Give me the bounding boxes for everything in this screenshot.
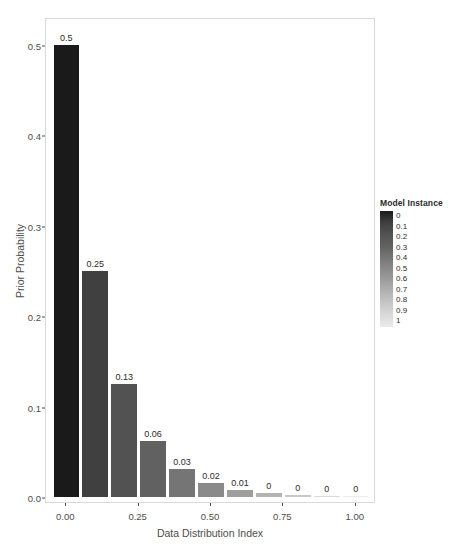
bar-group: 0: [285, 481, 310, 497]
legend-tick-label: 0.7: [396, 286, 407, 294]
legend: Model Instance 00.10.20.30.40.50.60.70.8…: [380, 198, 460, 327]
y-axis-title: Prior Probability: [14, 161, 26, 361]
y-tick-label: 0.4: [28, 131, 41, 142]
bar-group: 0: [314, 482, 339, 497]
bar-value-label: 0.03: [173, 458, 191, 467]
bar: [314, 496, 339, 497]
legend-tick-label: 0.4: [396, 254, 407, 262]
bar-value-label: 0.02: [202, 472, 220, 481]
legend-tick-label: 0.2: [396, 233, 407, 241]
legend-tick-label: 0: [396, 212, 400, 220]
bar-value-label: 0.5: [60, 34, 73, 43]
bar-group: 0.13: [111, 370, 136, 497]
x-tick-mark: [138, 503, 139, 506]
bars-layer: 0.50.250.130.060.030.020.010000: [46, 19, 374, 502]
legend-tick-label: 0.9: [396, 307, 407, 315]
legend-tick-label: 0.1: [396, 223, 407, 231]
legend-colorbar: [380, 211, 393, 327]
bar: [227, 490, 252, 497]
bar-chart: 0.00.10.20.30.40.5 Prior Probability 0.5…: [0, 0, 463, 560]
plot-panel: 0.50.250.130.060.030.020.010000: [45, 18, 375, 503]
bar: [140, 441, 165, 497]
bar: [343, 496, 368, 497]
bar: [54, 45, 79, 497]
legend-tick-label: 0.6: [396, 275, 407, 283]
bar-group: 0: [343, 482, 368, 497]
x-tick-label: 1.00: [345, 511, 364, 522]
x-tick-label: 0.50: [201, 511, 220, 522]
x-tick-label: 0.75: [273, 511, 292, 522]
bar: [256, 493, 281, 497]
legend-title: Model Instance: [380, 198, 460, 208]
y-tick-label: 0.2: [28, 312, 41, 323]
x-tick-label: 0.25: [128, 511, 147, 522]
x-axis: 0.000.250.500.751.00 Data Distribution I…: [45, 503, 375, 543]
bar-value-label: 0: [324, 485, 329, 494]
legend-tick-label: 0.5: [396, 265, 407, 273]
y-axis: 0.00.10.20.30.40.5 Prior Probability: [0, 18, 45, 503]
y-tick-label: 0.1: [28, 402, 41, 413]
bar-value-label: 0: [266, 482, 271, 491]
x-tick-mark: [282, 503, 283, 506]
bar-group: 0: [256, 479, 281, 497]
bar-value-label: 0: [353, 485, 358, 494]
bar: [198, 483, 223, 497]
legend-tick-label: 0.3: [396, 244, 407, 252]
bar-group: 0.06: [140, 427, 165, 497]
y-tick-label: 0.3: [28, 221, 41, 232]
legend-tick-label: 0.8: [396, 296, 407, 304]
x-tick-mark: [210, 503, 211, 506]
x-tick-mark: [355, 503, 356, 506]
bar-value-label: 0.13: [115, 373, 133, 382]
legend-tick-label: 1: [396, 317, 400, 325]
legend-labels: 00.10.20.30.40.50.60.70.80.91: [396, 211, 436, 327]
y-tick-label: 0.0: [28, 493, 41, 504]
bar-group: 0.02: [198, 469, 223, 497]
bar-value-label: 0: [295, 484, 300, 493]
bar-value-label: 0.01: [231, 479, 249, 488]
bar-group: 0.25: [82, 257, 107, 497]
bar: [169, 469, 194, 497]
x-axis-title: Data Distribution Index: [45, 527, 375, 539]
bar-value-label: 0.25: [86, 260, 104, 269]
bar: [111, 384, 136, 497]
bar-value-label: 0.06: [144, 430, 162, 439]
x-tick-mark: [65, 503, 66, 506]
y-tick-label: 0.5: [28, 41, 41, 52]
bar-group: 0.5: [54, 31, 79, 497]
bar: [285, 495, 310, 497]
bar-group: 0.01: [227, 476, 252, 497]
bar-group: 0.03: [169, 455, 194, 497]
legend-body: 00.10.20.30.40.50.60.70.80.91: [380, 211, 460, 327]
bar: [82, 271, 107, 497]
x-tick-label: 0.00: [56, 511, 75, 522]
